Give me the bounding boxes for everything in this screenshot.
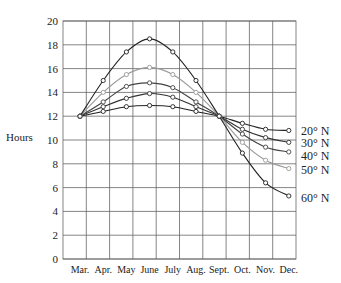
data-point-marker xyxy=(287,140,291,144)
y-tick-label: 4 xyxy=(53,205,59,217)
data-point-marker xyxy=(240,151,244,155)
data-point-marker xyxy=(287,150,291,154)
plot-grid xyxy=(63,21,296,259)
data-point-marker xyxy=(171,95,175,99)
series-label: 50° N xyxy=(301,163,330,177)
x-tick-label: Sept. xyxy=(209,264,229,275)
data-point-marker xyxy=(148,91,152,95)
daylight-hours-chart: 02468101214161820 Mar.Apr.MayJuneJulyAug… xyxy=(0,0,341,283)
data-point-marker xyxy=(124,105,128,109)
x-tick-label: Mar. xyxy=(71,264,90,275)
data-point-marker xyxy=(148,103,152,107)
data-point-marker xyxy=(217,114,221,118)
series-label: 40° N xyxy=(301,149,330,163)
data-point-marker xyxy=(264,145,268,149)
data-point-marker xyxy=(124,72,128,76)
data-point-marker xyxy=(78,114,82,118)
y-tick-label: 8 xyxy=(53,158,59,170)
data-point-marker xyxy=(148,65,152,69)
x-axis-ticks: Mar.Apr.MayJuneJulyAug.Sept.Oct.Nov.Dec. xyxy=(71,264,298,275)
data-point-marker xyxy=(101,105,105,109)
y-tick-label: 12 xyxy=(47,110,58,122)
series-line xyxy=(80,67,289,168)
data-point-marker xyxy=(240,121,244,125)
data-point-marker xyxy=(148,37,152,41)
data-point-marker xyxy=(287,166,291,170)
data-point-marker xyxy=(171,50,175,54)
data-point-marker xyxy=(124,84,128,88)
data-point-marker xyxy=(264,127,268,131)
data-point-marker xyxy=(101,100,105,104)
y-tick-label: 18 xyxy=(47,39,59,51)
data-point-marker xyxy=(101,78,105,82)
data-point-marker xyxy=(194,105,198,109)
series-labels: 20° N30° N40° N50° N60° N xyxy=(301,124,330,205)
x-tick-label: Aug. xyxy=(186,264,206,275)
y-tick-label: 10 xyxy=(47,134,59,146)
data-point-marker xyxy=(194,78,198,82)
data-point-marker xyxy=(194,90,198,94)
data-point-marker xyxy=(124,50,128,54)
x-tick-label: May xyxy=(117,264,135,275)
data-point-marker xyxy=(240,127,244,131)
data-point-marker xyxy=(264,158,268,162)
y-tick-label: 16 xyxy=(47,63,59,75)
data-point-marker xyxy=(287,194,291,198)
data-point-marker xyxy=(101,109,105,113)
y-axis-ticks: 02468101214161820 xyxy=(47,15,59,265)
y-tick-label: 6 xyxy=(53,182,59,194)
y-tick-label: 14 xyxy=(47,86,59,98)
x-tick-label: Oct. xyxy=(234,264,251,275)
series-line xyxy=(80,94,289,143)
data-point-marker xyxy=(264,181,268,185)
data-point-marker xyxy=(148,81,152,85)
data-point-marker xyxy=(101,90,105,94)
data-point-marker xyxy=(240,140,244,144)
data-point-marker xyxy=(194,109,198,113)
data-point-marker xyxy=(124,96,128,100)
data-point-marker xyxy=(171,105,175,109)
series-line xyxy=(80,39,289,196)
x-tick-label: Nov. xyxy=(256,264,275,275)
y-axis-label: Hours xyxy=(6,131,33,143)
x-tick-label: Apr. xyxy=(94,264,112,275)
y-tick-label: 2 xyxy=(53,229,59,241)
data-point-marker xyxy=(194,100,198,104)
data-point-marker xyxy=(171,86,175,90)
data-point-marker xyxy=(240,132,244,136)
series-label: 60° N xyxy=(301,191,330,205)
series-line xyxy=(80,105,289,130)
series-line xyxy=(80,83,289,152)
series-label: 30° N xyxy=(301,136,330,150)
y-tick-label: 20 xyxy=(47,15,59,27)
data-point-marker xyxy=(264,136,268,140)
x-tick-label: July xyxy=(164,264,181,275)
x-tick-label: Dec. xyxy=(279,264,298,275)
y-tick-label: 0 xyxy=(53,253,59,265)
x-tick-label: June xyxy=(140,264,159,275)
data-point-marker xyxy=(171,72,175,76)
data-point-marker xyxy=(287,128,291,132)
